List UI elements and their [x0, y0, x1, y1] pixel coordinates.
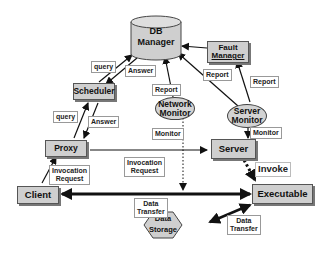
- executable-node: Executable: [252, 184, 313, 204]
- label-invocation-proxy-line1: Invocation: [127, 159, 162, 167]
- label-data-transfer-storage-line2: Transfer: [230, 225, 258, 233]
- label-data-transfer-main-line2: Transfer: [137, 208, 165, 216]
- label-report-fault: Report: [250, 76, 279, 88]
- label-report-network: Report: [152, 84, 181, 96]
- label-invocation-client: Invocation Request: [49, 165, 90, 185]
- label-report-server-db: Report: [203, 69, 232, 81]
- client-node: Client: [17, 186, 59, 204]
- server-node: Server: [211, 139, 256, 159]
- label-answer-bottom: Answer: [88, 116, 119, 128]
- label-monitor-server: Monitor: [250, 127, 282, 139]
- db-manager-line1: DB: [131, 26, 181, 37]
- db-manager-node: DB Manager: [131, 26, 181, 56]
- label-query-bottom: query: [53, 111, 78, 123]
- scheduler-node: Scheduler: [73, 83, 115, 100]
- server-monitor-node: Server Monitor: [227, 104, 267, 128]
- data-storage-line2: Storage: [149, 224, 177, 235]
- label-invocation-client-line2: Request: [52, 175, 87, 183]
- label-query-top: query: [91, 61, 116, 73]
- label-data-transfer-storage-line1: Data: [230, 217, 258, 225]
- label-invoke: Invoke: [255, 162, 291, 177]
- label-invocation-proxy: Invocation Request: [124, 157, 165, 177]
- server-monitor-line2: Monitor: [231, 116, 262, 125]
- label-data-transfer-main: Data Transfer: [134, 198, 168, 218]
- db-manager-line2: Manager: [131, 37, 181, 48]
- label-monitor-network: Monitor: [152, 128, 184, 140]
- label-data-transfer-main-line1: Data: [137, 200, 165, 208]
- label-answer-top: Answer: [125, 65, 156, 77]
- label-invocation-client-line1: Invocation: [52, 167, 87, 175]
- label-invocation-proxy-line2: Request: [127, 167, 162, 175]
- label-data-transfer-storage: Data Transfer: [227, 215, 261, 235]
- fault-manager-node: Fault Manager: [207, 41, 249, 63]
- network-monitor-node: Network Monitor: [155, 97, 195, 120]
- proxy-node: Proxy: [45, 140, 87, 157]
- network-monitor-line2: Monitor: [159, 109, 190, 118]
- fault-manager-line2: Manager: [212, 52, 245, 60]
